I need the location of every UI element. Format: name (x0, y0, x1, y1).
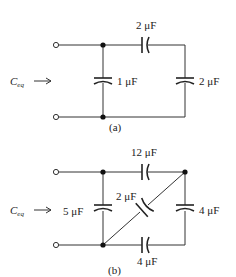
label-a-left-cap: 1 μF (117, 75, 137, 87)
label-b-left-cap: 5 μF (63, 205, 83, 217)
node-a-top (100, 42, 105, 47)
capacitor-b-right-icon (176, 205, 194, 211)
label-b-bottom-cap: 4 μF (137, 255, 157, 267)
wire-b-diagonal-lower (103, 212, 140, 245)
arrow-right-icon (34, 78, 51, 84)
terminal-a-bottom (53, 114, 58, 119)
capacitor-b-bottom-icon (142, 237, 149, 253)
node-b-bottom-left (100, 242, 105, 247)
capacitor-circuit-diagrams: 2 μF 1 μF 2 μF (a) Ceq (0, 0, 236, 277)
ceq-label-b: Ceq (10, 204, 24, 218)
label-a-right-cap: 2 μF (199, 75, 219, 87)
caption-b: (b) (108, 264, 121, 277)
label-b-top-cap: 12 μF (131, 146, 157, 158)
circuit-a: 2 μF 1 μF 2 μF (a) Ceq (10, 19, 219, 134)
terminal-a-top (53, 42, 58, 47)
label-b-diag-cap: 2 μF (116, 190, 136, 202)
ceq-label-a: Ceq (10, 75, 24, 89)
wire-b-diagonal-upper (148, 172, 185, 205)
label-b-right-cap: 4 μF (199, 204, 219, 216)
circuit-b: 12 μF 5 μF 2 μF 4 μF 4 μF (b) Ceq (10, 146, 219, 277)
node-b-top-left (100, 169, 105, 174)
arrow-right-icon (34, 207, 51, 213)
terminal-b-bottom (53, 242, 58, 247)
label-a-top-cap: 2 μF (136, 19, 156, 31)
node-a-bottom (100, 114, 105, 119)
caption-a: (a) (109, 121, 122, 134)
capacitor-b-left-icon (94, 205, 112, 211)
terminal-b-top (53, 169, 58, 174)
node-b-top-right (182, 169, 187, 174)
capacitor-a-top-icon (142, 37, 149, 53)
capacitor-b-top-icon (142, 164, 149, 180)
